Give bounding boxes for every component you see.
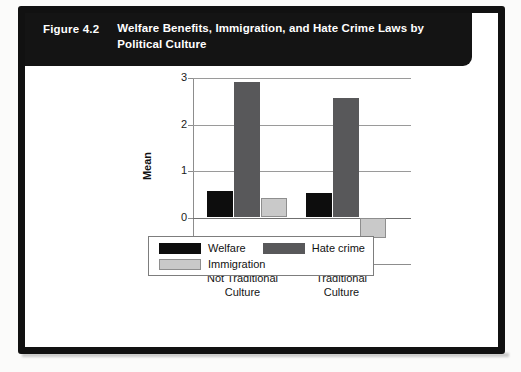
legend-row: Welfare Hate crime (159, 242, 365, 254)
bar-immigration-0 (261, 198, 287, 218)
figure-page: Figure 4.2 Welfare Benefits, Immigration… (0, 0, 521, 372)
gridline-1 (193, 171, 411, 172)
bar-welfare-1 (306, 193, 332, 217)
legend-label-welfare: Welfare (208, 242, 246, 254)
chart-area: Mean 3210-1 Not Traditional CultureTradi… (25, 68, 480, 346)
y-tick-label-2: 2 (181, 118, 187, 130)
y-axis-title: Mean (141, 152, 153, 180)
legend-row: Immigration (159, 258, 365, 270)
y-tick-label-3: 3 (181, 71, 187, 83)
bar-hate-crime-1 (333, 98, 359, 218)
y-tick-label-1: 1 (181, 164, 187, 176)
gridline-2 (193, 125, 411, 126)
y-tick-2 (188, 125, 193, 126)
y-tick-0 (188, 218, 193, 219)
y-tick-label-0: 0 (181, 211, 187, 223)
legend-label-immigration: Immigration (208, 258, 265, 270)
figure-header-banner: Figure 4.2 Welfare Benefits, Immigration… (25, 13, 472, 66)
legend-swatch-welfare (159, 243, 201, 254)
chart-legend: Welfare Hate crime Immigration (148, 236, 374, 276)
bar-welfare-0 (207, 191, 233, 218)
figure-header-inner: Figure 4.2 Welfare Benefits, Immigration… (43, 21, 462, 52)
figure-number: Figure 4.2 (43, 21, 99, 37)
figure-title: Welfare Benefits, Immigration, and Hate … (117, 21, 447, 52)
gridline-3 (193, 78, 411, 79)
legend-swatch-hate-crime (263, 243, 305, 254)
category-label-1: Traditional Culture (278, 272, 405, 299)
legend-item-welfare: Welfare (159, 242, 263, 254)
legend-item-hate-crime: Hate crime (263, 242, 365, 254)
y-tick-3 (188, 78, 193, 79)
bar-hate-crime-0 (234, 82, 260, 218)
legend-label-hate-crime: Hate crime (312, 242, 365, 254)
y-tick-1 (188, 171, 193, 172)
legend-item-immigration: Immigration (159, 258, 271, 270)
legend-swatch-immigration (159, 259, 201, 270)
